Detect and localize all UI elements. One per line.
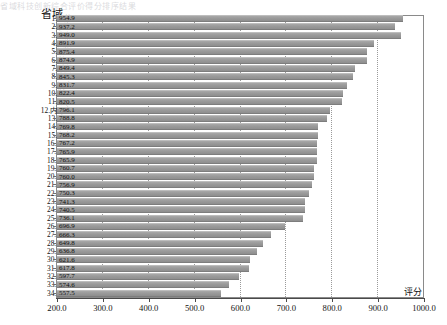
x-axis-tick	[57, 298, 58, 302]
y-axis-tick	[53, 135, 56, 136]
bar[interactable]	[57, 173, 314, 180]
y-axis-tick	[53, 234, 56, 235]
y-axis-tick	[53, 168, 56, 169]
bar[interactable]	[57, 23, 395, 30]
bar[interactable]	[57, 90, 343, 97]
x-axis-tick	[241, 298, 242, 302]
bar[interactable]	[57, 98, 342, 105]
bar[interactable]	[57, 240, 263, 247]
bar[interactable]	[57, 273, 239, 280]
bar[interactable]	[57, 73, 353, 80]
x-axis-tick-label: 800.0	[323, 303, 342, 313]
y-axis-tick	[53, 126, 56, 127]
bar[interactable]	[57, 198, 305, 205]
y-axis-tick	[53, 110, 56, 111]
x-axis-title: 评分	[404, 287, 422, 298]
x-axis-tick-label: 1000.0	[412, 303, 436, 313]
y-axis-tick	[53, 218, 56, 219]
bar[interactable]	[57, 40, 374, 47]
y-axis-tick	[53, 243, 56, 244]
y-axis-tick	[53, 276, 56, 277]
bar[interactable]	[57, 165, 314, 172]
x-axis-tick	[332, 298, 333, 302]
bar[interactable]	[57, 82, 347, 89]
x-axis-tick-label: 900.0	[368, 303, 387, 313]
bar[interactable]	[57, 256, 250, 263]
x-axis-tick	[195, 298, 196, 302]
y-axis-tick	[53, 51, 56, 52]
bar[interactable]	[57, 57, 367, 64]
bar[interactable]	[57, 181, 312, 188]
y-axis-tick	[53, 143, 56, 144]
province-score-bar-chart: 省域科技创新综合评价得分排序结果 省域 1.江苏954.92.北京937.23.…	[0, 0, 447, 325]
y-axis-tick	[53, 176, 56, 177]
bar[interactable]	[57, 231, 271, 238]
bar[interactable]	[57, 248, 257, 255]
bar[interactable]	[57, 223, 285, 230]
bar-rows-container: 1.江苏954.92.北京937.23.广东949.04.安徽891.95.上海…	[0, 15, 447, 298]
y-axis-tick	[53, 85, 56, 86]
bar[interactable]	[57, 15, 403, 22]
y-axis-tick	[53, 201, 56, 202]
x-axis-tick-label: 600.0	[231, 303, 250, 313]
y-axis-tick	[53, 160, 56, 161]
bar[interactable]	[57, 206, 305, 213]
y-axis-tick	[53, 259, 56, 260]
bar[interactable]	[57, 148, 317, 155]
bar[interactable]	[57, 65, 355, 72]
x-axis-tick	[149, 298, 150, 302]
top-cut-off-text-label: 省域科技创新综合评价得分排序结果	[0, 0, 136, 11]
y-axis-tick	[53, 60, 56, 61]
bar[interactable]	[57, 48, 367, 55]
x-axis-tick	[103, 298, 104, 302]
bar[interactable]	[57, 32, 401, 39]
y-axis-tick	[53, 268, 56, 269]
top-cut-off-text: 省域科技创新综合评价得分排序结果	[0, 0, 447, 12]
bar[interactable]	[57, 157, 317, 164]
y-axis-tick	[53, 93, 56, 94]
y-axis-tick	[53, 18, 56, 19]
x-axis-tick	[378, 298, 379, 302]
bar-row[interactable]: 34.……557.5	[0, 290, 447, 298]
y-axis-tick	[53, 251, 56, 252]
y-axis-tick	[53, 284, 56, 285]
bar[interactable]	[57, 140, 317, 147]
x-axis-tick	[286, 298, 287, 302]
bar[interactable]	[57, 107, 330, 114]
bar[interactable]	[57, 123, 318, 130]
x-axis-tick-label: 300.0	[93, 303, 112, 313]
bar[interactable]	[57, 215, 303, 222]
y-axis-tick	[53, 26, 56, 27]
x-axis-tick-label: 200.0	[47, 303, 66, 313]
y-axis-tick	[53, 101, 56, 102]
bar[interactable]	[57, 290, 221, 297]
y-axis-tick	[53, 43, 56, 44]
y-axis-tick	[53, 193, 56, 194]
y-axis-tick	[53, 293, 56, 294]
y-axis-tick	[53, 209, 56, 210]
bar-value-label: 557.5	[59, 289, 75, 297]
bar[interactable]	[57, 281, 229, 288]
bar[interactable]	[57, 265, 249, 272]
y-axis-tick	[53, 35, 56, 36]
y-axis-tick	[53, 184, 56, 185]
x-axis-tick-label: 700.0	[277, 303, 296, 313]
bar[interactable]	[57, 115, 327, 122]
y-axis-tick	[53, 151, 56, 152]
bar[interactable]	[57, 132, 318, 139]
bar[interactable]	[57, 190, 309, 197]
x-axis-tick	[424, 298, 425, 302]
x-axis-tick-label: 400.0	[139, 303, 158, 313]
x-axis-tick-label: 500.0	[185, 303, 204, 313]
y-axis-tick	[53, 76, 56, 77]
y-axis-tick	[53, 118, 56, 119]
y-axis-tick	[53, 68, 56, 69]
y-axis-tick	[53, 226, 56, 227]
